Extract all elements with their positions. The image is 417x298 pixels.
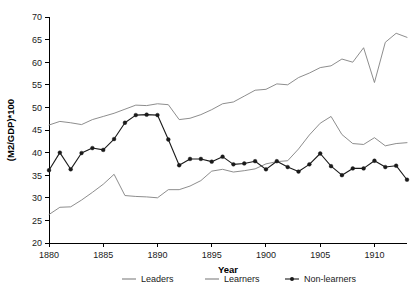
data-point-marker [210, 160, 214, 164]
data-point-marker [275, 159, 279, 163]
x-axis-tick-label: 1890 [147, 250, 167, 260]
data-point-marker [90, 146, 94, 150]
series-line-learners [49, 116, 407, 214]
data-point-marker [101, 148, 105, 152]
data-point-marker [199, 157, 203, 161]
data-point-marker [221, 155, 225, 159]
y-axis-tick-label: 20 [32, 238, 42, 248]
data-point-marker [156, 113, 160, 117]
data-point-marker [166, 138, 170, 142]
y-axis-tick-label: 45 [32, 125, 42, 135]
data-point-marker [351, 167, 355, 171]
x-axis-tick-label: 1900 [256, 250, 276, 260]
data-point-marker [264, 167, 268, 171]
data-point-marker [394, 164, 398, 168]
y-axis-tick-label: 55 [32, 80, 42, 90]
x-axis-tick-label: 1895 [202, 250, 222, 260]
data-point-marker [253, 159, 257, 163]
data-point-marker [123, 121, 127, 125]
y-axis-tick-label: 50 [32, 103, 42, 113]
legend-label: Non-learners [304, 274, 357, 284]
data-point-marker [297, 170, 301, 174]
y-axis-tick-label: 70 [32, 12, 42, 22]
legend-swatch-marker [290, 277, 294, 281]
data-point-marker [80, 151, 84, 155]
data-point-marker [145, 113, 149, 117]
data-point-marker [307, 162, 311, 166]
data-point-marker [362, 167, 366, 171]
data-point-marker [318, 152, 322, 156]
legend-label: Learners [224, 274, 260, 284]
y-axis-tick-label: 30 [32, 193, 42, 203]
data-point-marker [242, 162, 246, 166]
data-point-marker [69, 167, 73, 171]
data-point-marker [188, 157, 192, 161]
data-point-marker [405, 178, 409, 182]
y-axis-tick-label: 60 [32, 58, 42, 68]
y-axis-tick-label: 35 [32, 171, 42, 181]
data-point-marker [58, 151, 62, 155]
line-chart-plot: 2025303540455055606570188018851890189519… [0, 0, 417, 298]
x-axis-title: Year [218, 264, 238, 275]
x-axis-tick-label: 1885 [93, 250, 113, 260]
data-point-marker [286, 165, 290, 169]
data-point-marker [383, 165, 387, 169]
legend-label: Leaders [141, 274, 174, 284]
y-axis-tick-label: 65 [32, 35, 42, 45]
legend-item-learners[interactable]: Learners [205, 274, 260, 284]
data-point-marker [47, 168, 51, 172]
x-axis-tick-label: 1910 [364, 250, 384, 260]
data-point-marker [177, 163, 181, 167]
legend-item-non-learners[interactable]: Non-learners [285, 274, 357, 284]
data-point-marker [340, 173, 344, 177]
y-axis-tick-label: 40 [32, 148, 42, 158]
y-axis-tick-label: 25 [32, 216, 42, 226]
data-point-marker [134, 113, 138, 117]
data-point-marker [232, 162, 236, 166]
x-axis-tick-label: 1905 [310, 250, 330, 260]
legend-item-leaders[interactable]: Leaders [122, 274, 174, 284]
series-line-leaders [49, 33, 407, 125]
data-point-marker [373, 159, 377, 163]
data-point-marker [329, 164, 333, 168]
data-point-marker [112, 137, 116, 141]
x-axis-tick-label: 1880 [39, 250, 59, 260]
y-axis-title: (M2/GDP)*100 [5, 99, 16, 161]
chart-container: 2025303540455055606570188018851890189519… [0, 0, 417, 298]
